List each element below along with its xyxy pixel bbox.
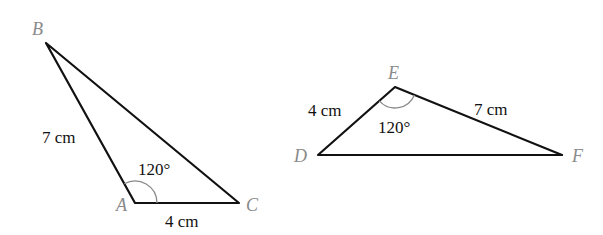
triangle-abc: B A C 7 cm 4 cm 120° [32,19,259,231]
side-ef-length: 7 cm [474,100,508,119]
triangle-def: E D F 4 cm 7 cm 120° [293,63,584,166]
vertex-label-d: D [293,146,307,166]
vertex-label-b: B [32,19,43,39]
triangle-abc-outline [46,43,239,203]
angle-e-value: 120° [378,118,410,137]
triangle-def-outline [318,87,562,155]
angle-a-value: 120° [138,160,170,179]
side-ac-length: 4 cm [165,212,199,231]
diagram-canvas: B A C 7 cm 4 cm 120° E D F 4 cm 7 cm 120… [0,0,603,235]
side-ab-length: 7 cm [42,128,76,147]
vertex-label-e: E [387,63,399,83]
vertex-label-f: F [571,146,584,166]
vertex-label-a: A [115,195,128,215]
side-de-length: 4 cm [308,101,342,120]
vertex-label-c: C [246,195,259,215]
